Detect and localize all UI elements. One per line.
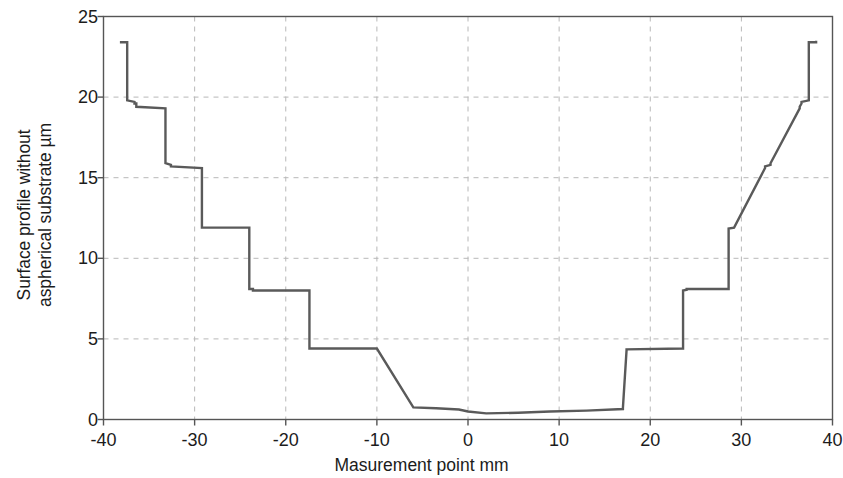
chart-figure: Surface profile without aspherical subst… (0, 0, 843, 478)
plot-area (0, 0, 843, 478)
axis-ticks (98, 17, 833, 426)
gridlines (104, 17, 833, 420)
